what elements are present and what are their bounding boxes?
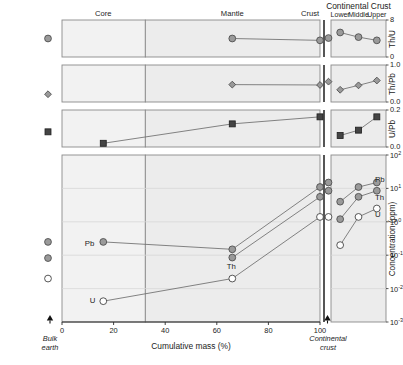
cc-datapoint-concentration-U-1	[355, 214, 362, 221]
crust-marker-th-u	[325, 35, 332, 42]
crust-marker-concentration-Th	[325, 187, 332, 194]
crust-marker-concentration-U	[325, 214, 332, 221]
yaxis-title-concentration: Concentration (ppm)	[388, 201, 397, 276]
panel-mantle-crust-u-pb	[145, 110, 320, 147]
datapoint-concentration-Pb-1	[229, 246, 236, 253]
xtick-label-4: 80	[264, 327, 272, 334]
reservoir-label-crust: Crust	[301, 10, 319, 18]
cc-sublabel-middle: Middle	[348, 11, 369, 18]
cc-datapoint-u-pb-2	[374, 114, 380, 120]
datapoint-concentration-U-2	[317, 214, 324, 221]
series-label-th: Th	[227, 263, 236, 271]
cc-datapoint-concentration-Th-0	[337, 216, 344, 223]
panel-mantle-crust-concentration	[145, 155, 320, 322]
bulk-earth-marker-concentration-Th	[45, 255, 52, 262]
cc-datapoint-u-pb-1	[356, 127, 362, 133]
ytick-label-u-pb-1: 0.2	[390, 106, 400, 113]
datapoint-concentration-Pb-0	[100, 239, 107, 246]
continental-crust-group-header: Continental Crust	[326, 2, 391, 10]
ytick-label-concentration-0: 10-3	[390, 318, 403, 327]
ytick-label-th-pb-1: 1.0	[390, 61, 400, 68]
continental-crust-label-0: Continental	[309, 335, 346, 342]
bulk-earth-label-1: earth	[42, 344, 59, 351]
ytick-label-concentration-1: 10-2	[390, 285, 403, 294]
cc-datapoint-th-u-1	[355, 34, 362, 41]
cc-series-label-u: U	[375, 211, 381, 219]
yaxis-title-th-pb: Th/Pb	[388, 73, 397, 95]
datapoint-concentration-Pb-2	[317, 184, 324, 191]
xtick-label-2: 40	[161, 327, 169, 334]
datapoint-th-u-Th/U main-0	[229, 35, 236, 42]
datapoint-u-pb-U/Pb main-2	[317, 114, 323, 120]
cc-sublabel-upper: Upper	[367, 11, 386, 18]
cc-datapoint-concentration-Th-1	[355, 193, 362, 200]
cc-datapoint-u-pb-0	[337, 133, 343, 139]
ytick-label-concentration-5: 102	[390, 151, 401, 160]
datapoint-u-pb-U/Pb main-1	[229, 121, 235, 127]
xtick-label-3: 60	[213, 327, 221, 334]
datapoint-concentration-U-0	[100, 298, 107, 305]
ytick-label-th-u-1: 8	[390, 16, 394, 23]
reservoir-label-mantle: Mantle	[221, 10, 244, 18]
bulk-earth-arrow	[47, 315, 53, 321]
cc-series-label-pb: Pb	[375, 176, 385, 184]
xtick-label-0: 0	[60, 327, 64, 334]
cc-datapoint-concentration-Pb-0	[337, 198, 344, 205]
crust-marker-concentration-Pb	[325, 179, 332, 186]
series-label-u: U	[90, 297, 96, 305]
yaxis-title-u-pb: U/Pb	[388, 119, 397, 137]
bulk-earth-marker-u-pb	[45, 129, 51, 135]
panel-core-th-u	[62, 20, 145, 57]
datapoint-concentration-Th-0	[229, 254, 236, 261]
bulk-earth-marker-th-pb	[45, 91, 52, 98]
continental-crust-arrow	[324, 315, 330, 321]
reservoir-label-core: Core	[95, 10, 111, 18]
cc-datapoint-concentration-Pb-1	[355, 184, 362, 191]
datapoint-concentration-Th-1	[317, 193, 324, 200]
datapoint-th-u-Th/U main-1	[317, 37, 324, 44]
series-label-pb: Pb	[85, 240, 95, 248]
panel-core-th-pb	[62, 65, 145, 102]
datapoint-concentration-U-1	[229, 275, 236, 282]
ytick-label-concentration-4: 101	[390, 184, 401, 193]
xtick-label-1: 20	[109, 327, 117, 334]
datapoint-u-pb-U/Pb main-0	[100, 140, 106, 146]
bulk-earth-marker-th-u	[45, 35, 52, 42]
cc-datapoint-concentration-U-0	[337, 242, 344, 249]
bulk-earth-marker-concentration-Pb	[45, 239, 52, 246]
cc-sublabel-lower: Lower	[331, 11, 350, 18]
continental-crust-label-1: crust	[320, 344, 336, 351]
yaxis-title-th-u: Th/U	[388, 30, 397, 48]
bulk-earth-label-0: Bulk	[43, 335, 57, 342]
bulk-earth-marker-concentration-U	[45, 275, 52, 282]
cc-datapoint-th-u-2	[373, 37, 380, 44]
cc-datapoint-th-u-0	[337, 29, 344, 36]
cc-series-label-th: Th	[375, 194, 384, 202]
xaxis-title: Cumulative mass (%)	[151, 342, 231, 350]
